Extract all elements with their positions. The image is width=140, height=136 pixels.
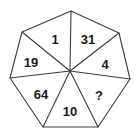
sector-label-right: 4 [101,57,109,72]
heptagon-puzzle-figure: 1 31 4 ? 10 64 19 [0,0,140,136]
sector-label-bottom-left: 64 [34,87,49,102]
sector-label-bottom-right-unknown: ? [95,88,103,103]
sector-label-bottom: 10 [63,104,77,119]
heptagon-diagram: 1 31 4 ? 10 64 19 [0,0,140,136]
sector-label-left: 19 [24,55,38,70]
sector-label-top-right: 31 [81,32,95,47]
sector-label-top-left: 1 [51,32,58,47]
